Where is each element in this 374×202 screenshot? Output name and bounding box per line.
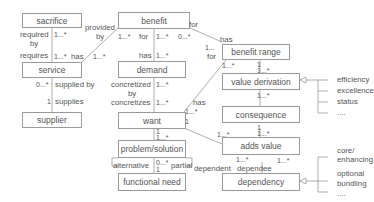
- mult-av-dep-1: 1...*: [236, 156, 248, 163]
- kind-core: core/: [337, 147, 354, 155]
- role-has-want: has: [193, 99, 206, 107]
- mult-demand-concretized: 1...*: [156, 81, 168, 88]
- mult-benefit-left: 1...*: [118, 33, 130, 40]
- role-concretizes: concretizes: [111, 99, 150, 107]
- class-sacrifice[interactable]: sacrifice: [22, 13, 82, 28]
- mult-adds-value-left: 1...*: [217, 131, 229, 138]
- mult-cons-av-2: 1...*: [257, 130, 269, 137]
- role-for-benefit: for: [139, 33, 148, 41]
- mult-range-1: 1...: [205, 44, 215, 51]
- class-dependency[interactable]: dependency: [222, 173, 300, 191]
- mult-want-ps-2: 1...*: [156, 134, 168, 141]
- kind-more-dep: ....: [337, 190, 346, 198]
- role-provided-by: provided: [85, 24, 115, 32]
- class-value-derivation[interactable]: value derivation: [222, 73, 300, 90]
- role-partial: partial: [171, 162, 192, 170]
- role-provided-by-2: by: [96, 33, 104, 41]
- class-supplier[interactable]: supplier: [22, 112, 82, 128]
- mult-demand-concretizes: 1...*: [156, 99, 168, 106]
- mult-vd-consequence: 1...*: [257, 92, 269, 99]
- kind-optional: optional: [337, 170, 364, 178]
- mult-service-has: 1...*: [93, 53, 105, 60]
- mult-supplier-1: 1: [47, 98, 51, 105]
- kind-bundling: bundling: [337, 180, 366, 188]
- mult-service-supplier: 0...*: [36, 81, 48, 88]
- role-required-by: required: [20, 31, 49, 39]
- role-dependee: dependee: [237, 165, 272, 173]
- role-required-by-2: by: [30, 40, 38, 48]
- mult-benefit-mid: 1...*: [156, 33, 168, 40]
- mult-want-has-1: 1...*: [185, 108, 197, 115]
- kind-enhancing: enhancing: [337, 156, 373, 164]
- kind-more: ....: [337, 109, 346, 117]
- role-concretized-by-2: by: [128, 90, 136, 98]
- role-has-demand: has: [139, 52, 152, 60]
- role-supplied-by: supplied by: [55, 81, 94, 89]
- role-has-range: has: [220, 36, 233, 44]
- role-concretized-by: concretized: [111, 81, 151, 89]
- mult-want-has-2: 1: [185, 118, 189, 125]
- role-for-want: for: [207, 53, 216, 61]
- class-functional-need[interactable]: functional need: [118, 173, 186, 191]
- kind-efficiency: efficiency: [337, 76, 369, 84]
- mult-demand-has: 1...*: [156, 52, 168, 59]
- mult-benefit-right: 0...*: [178, 33, 190, 40]
- mult-range-vd-2: 1...*: [257, 67, 269, 74]
- class-problem-solution[interactable]: problem/solution: [118, 140, 186, 158]
- class-demand[interactable]: demand: [118, 61, 186, 78]
- class-adds-value[interactable]: adds value: [222, 137, 300, 155]
- mult-sacrifice-top: 1...*: [54, 31, 66, 38]
- role-alternative: alternative: [113, 162, 149, 170]
- role-has-service: has: [71, 53, 84, 61]
- mult-sacrifice-bottom: 1...*: [54, 53, 66, 60]
- role-supplies: supplies: [55, 98, 84, 106]
- class-consequence[interactable]: consequence: [222, 106, 300, 123]
- class-benefit-range[interactable]: benefit range: [222, 44, 290, 60]
- kind-excellence: excellence: [337, 87, 374, 95]
- mult-av-dep-2: 1...*: [277, 157, 289, 164]
- class-service[interactable]: service: [22, 62, 82, 78]
- role-requires: requires: [20, 52, 48, 60]
- mult-ps-fn-2: 1: [156, 166, 160, 173]
- class-benefit[interactable]: benefit: [118, 12, 190, 29]
- class-want[interactable]: want: [118, 112, 186, 129]
- mult-range-bottom-left: 1...*: [222, 62, 234, 69]
- role-for-range: for: [189, 21, 198, 29]
- mult-ps-fn-1: 0...*: [156, 159, 168, 166]
- role-dependent: dependent: [194, 165, 231, 173]
- kind-status: status: [337, 98, 358, 106]
